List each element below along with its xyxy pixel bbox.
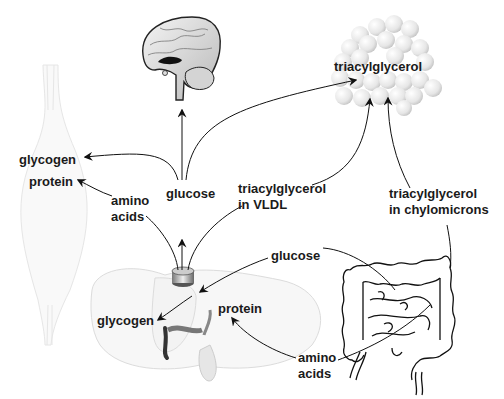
label-vldl-line1: triacylglycerol	[238, 181, 326, 196]
label-chylomicrons-line1: triacylglycerol	[389, 186, 477, 201]
label-adipose-triacylglycerol: triacylglycerol	[334, 59, 422, 74]
label-gut-glucose: glucose	[271, 248, 320, 263]
label-blood-glucose: glucose	[166, 186, 215, 201]
label-gut-amino-acids-line2: acids	[298, 366, 331, 381]
brain-illustration	[143, 17, 221, 100]
arrow-glucose-to-glycogen	[85, 154, 178, 180]
muscle-illustration	[21, 65, 87, 345]
label-gut-amino-acids-line1: amino	[298, 350, 336, 365]
label-muscle-protein: protein	[29, 174, 73, 189]
intestine-illustration	[342, 256, 455, 395]
label-vldl-line2: in VLDL	[238, 197, 287, 212]
label-liver-glycogen: glycogen	[97, 313, 154, 328]
arrow-glucose-to-adipose	[186, 80, 356, 180]
label-blood-amino-acids-line1: amino	[111, 193, 149, 208]
diagram-canvas: triacylglycerol glycogen protein amino a…	[0, 0, 504, 399]
label-muscle-glycogen: glycogen	[19, 152, 76, 167]
label-chylomicrons-line2: in chylomicrons	[389, 202, 489, 217]
arrow-vldl-to-adipose	[312, 99, 370, 185]
label-liver-protein: protein	[218, 301, 262, 316]
label-blood-amino-acids-line2: acids	[111, 209, 144, 224]
